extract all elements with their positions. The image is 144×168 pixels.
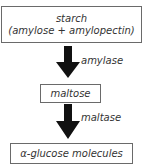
down-arrow-icon	[55, 104, 81, 140]
amylase-label: amylase	[81, 55, 123, 67]
maltose-label: maltose	[50, 88, 90, 100]
starch-node: starch (amylose + amylopectin)	[1, 6, 142, 43]
down-arrow-icon	[55, 46, 81, 80]
glucose-label: α-glucose molecules	[20, 148, 123, 160]
maltase-label: maltase	[81, 112, 121, 124]
starch-components-label: (amylose + amylopectin)	[8, 25, 134, 37]
maltose-node: maltose	[40, 84, 101, 103]
glucose-node: α-glucose molecules	[10, 143, 133, 164]
starch-label: starch	[56, 13, 87, 25]
